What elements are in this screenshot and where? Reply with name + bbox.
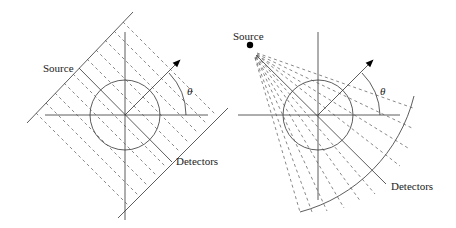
- central-ray: [256, 55, 386, 184]
- theta-arc: [169, 73, 186, 115]
- fan-theta-label: θ: [380, 86, 385, 97]
- fan-beam-diagram: [238, 32, 414, 212]
- diagram-canvas: [0, 0, 456, 228]
- parallel-beam-diagram: [27, 12, 228, 220]
- source-point: [247, 42, 253, 48]
- fan-source-label: Source: [233, 31, 264, 42]
- parallel-theta-label: θ: [187, 86, 192, 97]
- fan-detectors-label: Detectors: [391, 181, 433, 192]
- theta-direction: [318, 60, 373, 115]
- parallel-detectors-label: Detectors: [176, 156, 218, 167]
- parallel-source-label: Source: [43, 63, 74, 74]
- detector-arc: [300, 96, 414, 212]
